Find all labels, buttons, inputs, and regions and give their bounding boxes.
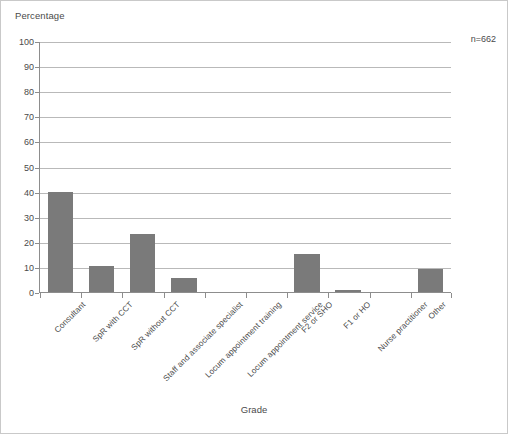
x-tick-mark xyxy=(328,293,329,298)
x-label-cell: Nurse practitioner xyxy=(370,300,411,395)
y-tick-label: 80 xyxy=(24,87,34,97)
y-tick-label: 70 xyxy=(24,112,34,122)
x-label-cell: Staff and associate specialist xyxy=(164,300,205,395)
bar xyxy=(89,266,114,292)
bar-slot xyxy=(328,42,369,292)
x-axis-ticks xyxy=(40,293,452,298)
y-tick-mark xyxy=(35,293,39,294)
x-tick-mark xyxy=(370,293,371,298)
x-label-cell: Other xyxy=(411,300,452,395)
x-axis-tick-labels: ConsultantSpR with CCTSpR without CCTSta… xyxy=(40,300,452,395)
bar-slot xyxy=(204,42,245,292)
bar xyxy=(294,254,319,292)
x-label-cell: Locum appointment service xyxy=(246,300,287,395)
x-tick-mark xyxy=(122,293,123,298)
y-tick-label: 0 xyxy=(29,288,34,298)
x-tick-mark xyxy=(411,293,412,298)
x-tick-cell xyxy=(287,293,328,298)
x-tick-cell xyxy=(40,293,81,298)
bar-slot xyxy=(245,42,286,292)
y-tick-label: 90 xyxy=(24,62,34,72)
bar xyxy=(171,278,196,292)
x-tick-mark xyxy=(40,293,41,298)
y-tick-label: 100 xyxy=(19,37,34,47)
x-tick-mark xyxy=(246,293,247,298)
x-tick-cell xyxy=(328,293,369,298)
bar xyxy=(335,290,360,293)
x-tick-cell xyxy=(246,293,287,298)
y-tick-label: 60 xyxy=(24,137,34,147)
y-tick-label: 50 xyxy=(24,163,34,173)
x-tick-cell xyxy=(370,293,411,298)
bar-slot xyxy=(122,42,163,292)
x-tick-mark xyxy=(81,293,82,298)
x-label-cell: SpR with CCT xyxy=(81,300,122,395)
x-axis-title: Grade xyxy=(1,404,507,415)
x-tick-cell xyxy=(205,293,246,298)
x-label-cell: F1 or HO xyxy=(328,300,369,395)
x-tick-cell xyxy=(164,293,205,298)
sample-size-annotation: n=662 xyxy=(471,34,496,44)
x-label-cell: Consultant xyxy=(40,300,81,395)
x-label-cell: F2 or SHO xyxy=(287,300,328,395)
x-tick-mark xyxy=(287,293,288,298)
y-tick-label: 10 xyxy=(24,263,34,273)
bar-slot xyxy=(81,42,122,292)
bar xyxy=(130,234,155,292)
x-tick-cell xyxy=(81,293,122,298)
x-tick-mark xyxy=(451,293,452,298)
x-tick-label: Other xyxy=(427,300,448,321)
bar-slot xyxy=(163,42,204,292)
bar-slot xyxy=(287,42,328,292)
x-tick-cell xyxy=(122,293,163,298)
x-label-cell: Locum appointment training xyxy=(205,300,246,395)
y-tick-label: 20 xyxy=(24,238,34,248)
x-tick-cell xyxy=(411,293,452,298)
bar-slot xyxy=(369,42,410,292)
x-tick-mark xyxy=(164,293,165,298)
x-tick-label: F1 or HO xyxy=(342,300,373,331)
x-label-cell: SpR without CCT xyxy=(122,300,163,395)
bar-slot xyxy=(40,42,81,292)
chart-figure: Percentage n=662 1009080706050403020100 … xyxy=(0,0,508,434)
y-tick-label: 30 xyxy=(24,213,34,223)
x-tick-mark xyxy=(205,293,206,298)
bar-slot xyxy=(410,42,451,292)
bars-group xyxy=(40,42,451,292)
bar xyxy=(418,269,443,292)
y-axis-title: Percentage xyxy=(15,10,65,21)
y-tick-label: 40 xyxy=(24,188,34,198)
bar xyxy=(48,192,73,292)
plot-area: 1009080706050403020100 xyxy=(39,42,451,293)
